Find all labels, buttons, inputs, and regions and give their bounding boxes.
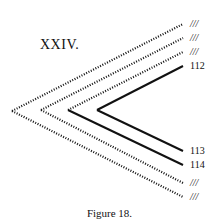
solid-line <box>68 110 183 165</box>
figure-caption: Figure 18. <box>0 207 219 219</box>
line-label: /// <box>190 192 198 202</box>
figure-title: XXIV. <box>40 37 79 53</box>
figure: XXIV. /// /// /// 112 113 114 /// /// Fi… <box>0 0 219 224</box>
chevron-diagram <box>0 0 219 224</box>
dotted-line <box>12 24 183 111</box>
dotted-line <box>41 110 183 183</box>
line-label: 112 <box>190 61 205 71</box>
line-label: 113 <box>190 146 205 156</box>
line-label: 114 <box>190 160 205 170</box>
line-label: /// <box>190 178 198 188</box>
line-label: /// <box>190 33 198 43</box>
line-label: /// <box>190 47 198 57</box>
line-label: /// <box>190 19 198 29</box>
dotted-line <box>68 52 183 110</box>
